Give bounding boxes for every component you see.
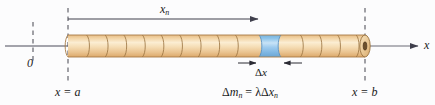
rod-cylinder xyxy=(65,35,370,57)
label-x-equals-a: x = a xyxy=(55,86,80,98)
label-xn: xn xyxy=(160,3,169,17)
label-origin: 0 xyxy=(27,57,33,69)
label-xn-subscript: n xyxy=(165,8,169,17)
rod-right-cap xyxy=(360,35,370,57)
label-x-axis: x xyxy=(424,39,429,51)
label-mass-equation: Δmn = λΔxn xyxy=(222,86,278,100)
equation-delta-x-symbol: Δ xyxy=(261,85,269,99)
label-x-equals-b: x = b xyxy=(352,86,377,98)
equation-x-subscript: n xyxy=(274,91,278,100)
rod-mass-element-figure: xn 0 x = a x = b Δx Δmn = λΔxn x xyxy=(0,0,435,105)
label-delta-x-base: x xyxy=(262,66,267,78)
equation-equals: = xyxy=(242,85,255,99)
equation-delta-m-symbol: Δ xyxy=(222,85,230,99)
rod-slice-highlight xyxy=(259,35,281,57)
label-delta-x: Δx xyxy=(255,67,267,78)
